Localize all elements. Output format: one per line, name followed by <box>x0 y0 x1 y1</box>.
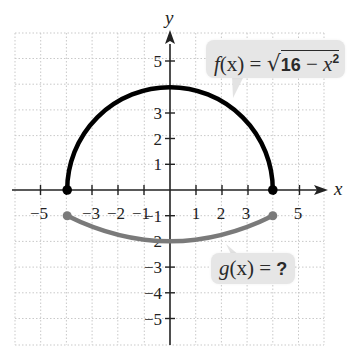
svg-text:−5: −5 <box>30 204 48 223</box>
g-endpoint-left <box>63 211 72 220</box>
svg-text:5: 5 <box>154 52 163 71</box>
f-function-label: f(x) = √16 − x2 <box>206 40 345 78</box>
g-name: g <box>219 256 230 280</box>
f-endpoint-left <box>62 185 72 195</box>
g-value: ? <box>276 259 287 279</box>
f-callout-pointer <box>232 76 244 98</box>
svg-text:−5: −5 <box>144 310 162 329</box>
f-arg: (x) <box>220 52 245 76</box>
svg-text:1: 1 <box>154 155 163 174</box>
y-axis-arrow-icon <box>165 30 175 44</box>
sqrt-icon: √ <box>267 51 281 76</box>
g-endpoint-right <box>268 211 277 220</box>
svg-text:2: 2 <box>154 130 163 149</box>
x-axis-label: x <box>333 178 343 199</box>
g-equals: = <box>254 256 276 280</box>
radicand-exponent: 2 <box>332 52 339 66</box>
f-equals: = <box>244 52 266 76</box>
svg-text:−4: −4 <box>144 284 163 303</box>
g-function-label: g(x) = ? <box>211 253 295 284</box>
svg-text:5: 5 <box>294 204 303 223</box>
svg-text:−2: −2 <box>107 204 125 223</box>
svg-text:1: 1 <box>192 204 201 223</box>
svg-text:3: 3 <box>242 204 251 223</box>
f-radicand: 16 − x2 <box>281 50 339 76</box>
g-arg: (x) <box>230 256 255 280</box>
radicand-number: 16 <box>281 55 301 75</box>
svg-text:−3: −3 <box>144 258 162 277</box>
svg-text:−1: −1 <box>144 207 162 226</box>
svg-text:3: 3 <box>154 104 163 123</box>
f-endpoint-right <box>268 185 278 195</box>
radicand-minus: − <box>301 52 323 76</box>
svg-text:−3: −3 <box>82 204 100 223</box>
svg-text:2: 2 <box>217 204 226 223</box>
y-axis-label: y <box>163 7 174 28</box>
